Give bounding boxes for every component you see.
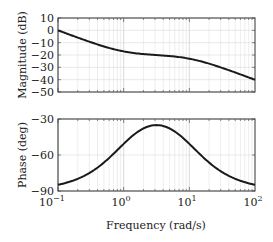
mag-ytick-10: 10 (40, 12, 54, 25)
bode-plot: 10 0 −10 −20 −30 −40 −50 −30 −60 −90 10−… (0, 0, 273, 242)
mag-ytick-m10: −10 (31, 37, 54, 50)
frequency-xlabel: Frequency (rad/s) (106, 219, 206, 232)
xtick-10: 101 (177, 194, 196, 209)
mag-ytick-m40: −40 (31, 74, 54, 87)
magnitude-ylabel: Magnitude (dB) (16, 11, 29, 99)
mag-ytick-0: 0 (47, 24, 54, 37)
phase-ytick-m60: −60 (31, 149, 54, 162)
xtick-100: 102 (243, 194, 262, 209)
phase-ytick-m30: −30 (31, 113, 54, 126)
mag-ytick-m30: −30 (31, 61, 54, 74)
xtick-1: 100 (111, 194, 130, 209)
phase-grid (58, 119, 255, 191)
xtick-0.1: 10−1 (39, 194, 65, 209)
mag-ytick-m20: −20 (31, 49, 54, 62)
mag-ytick-m50: −50 (31, 86, 54, 99)
phase-ylabel: Phase (deg) (16, 122, 29, 188)
